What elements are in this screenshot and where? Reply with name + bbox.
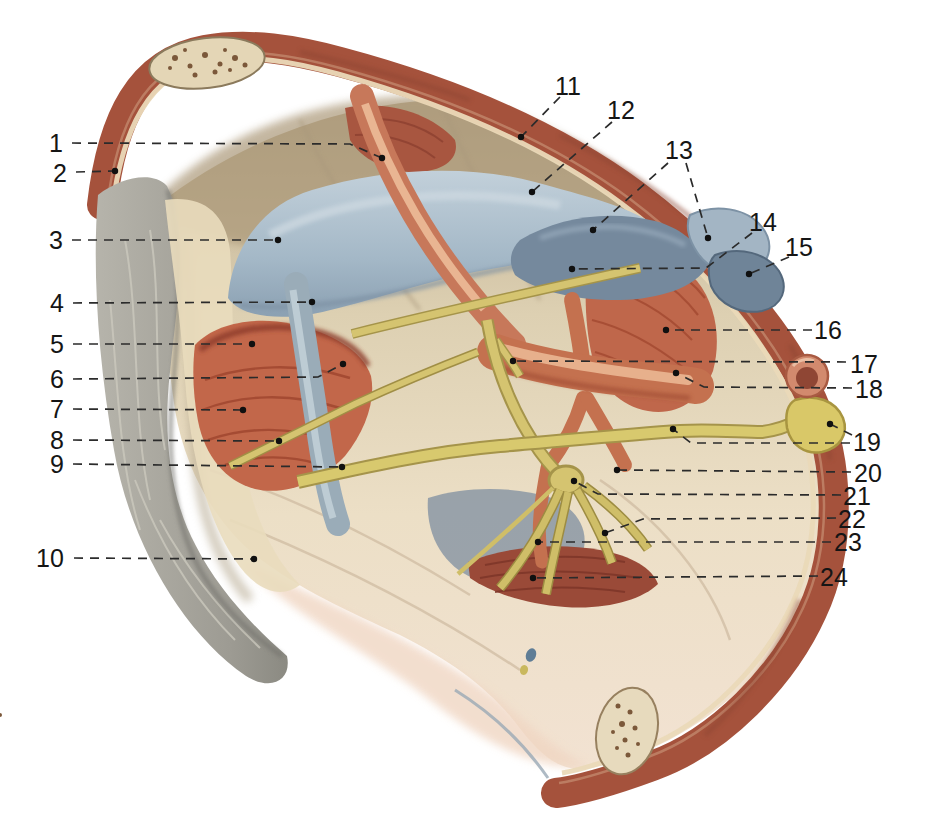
figure-label-13: 13 [665,136,693,164]
figure-label-15: 15 [785,233,813,261]
figure-label-10: 10 [36,544,64,572]
atlas-figure: 123456789101112131415161718192021222324 [0,0,931,834]
leader-line-7 [73,409,243,410]
leader-dot-22 [602,530,608,536]
figure-label-23: 23 [834,528,862,556]
leader-dot-19 [670,426,676,432]
leader-dot-4 [309,299,315,305]
leader-dot-1 [379,155,385,161]
leader-dot-2 [112,168,118,174]
leader-dot-23 [535,539,541,545]
figure-label-14: 14 [749,208,777,236]
leader-dot-13 [590,227,596,233]
leader-dot-9 [339,464,345,470]
figure-label-11: 11 [555,72,581,100]
leader-dot-15 [746,271,752,277]
leader-dot-14 [569,266,575,272]
leader-dot-13 [705,235,711,241]
leader-dot-8 [276,438,282,444]
obturator-nerve-canal-blob [786,397,844,452]
leader-dot-10 [251,556,257,562]
iliac-crest-bone-section [146,31,267,95]
figure-label-24: 24 [820,563,848,591]
anatomical-figure: 123456789101112131415161718192021222324 [0,0,931,834]
figure-label-7: 7 [50,395,64,423]
figure-label-17: 17 [850,350,878,378]
figure-label-1: 1 [49,129,63,157]
leader-dot-24 [530,575,536,581]
figure-label-18: 18 [855,375,883,403]
figure-label-9: 9 [50,450,64,478]
leader-dot-20 [614,467,620,473]
leader-dot-16 [663,327,669,333]
figure-label-16: 16 [814,316,842,344]
figure-label-3: 3 [49,226,63,254]
leader-dot-5 [249,341,255,347]
leader-dot-11 [518,134,524,140]
leader-dot-12 [529,189,535,195]
leader-dot-3 [275,237,281,243]
leader-dot-17 [510,358,516,364]
leader-line-2 [76,171,115,172]
figure-label-19: 19 [853,428,881,456]
figure-label-4: 4 [50,289,64,317]
leader-dot-18 [673,370,679,376]
leader-dot-7 [240,407,246,413]
leader-dot-19 [827,421,833,427]
figure-label-5: 5 [50,330,64,358]
leader-dot-21 [571,478,577,484]
figure-label-2: 2 [53,159,67,187]
figure-label-6: 6 [50,365,64,393]
figure-label-12: 12 [607,96,635,124]
leader-dot-6 [340,361,346,367]
